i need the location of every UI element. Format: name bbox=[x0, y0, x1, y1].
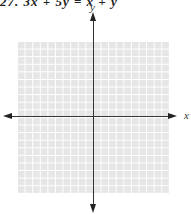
x-axis bbox=[8, 116, 168, 117]
y-axis-label: y bbox=[90, 1, 95, 13]
y-axis bbox=[93, 16, 94, 206]
x-axis-label: x bbox=[184, 109, 189, 121]
x-axis-left-arrow-icon bbox=[3, 113, 12, 119]
x-axis-right-arrow-icon bbox=[168, 113, 177, 119]
y-axis-down-arrow-icon bbox=[90, 204, 96, 213]
problem-heading: 27. 3x + 5y = x + y bbox=[0, 0, 118, 10]
y-axis-up-arrow-icon bbox=[90, 12, 96, 21]
